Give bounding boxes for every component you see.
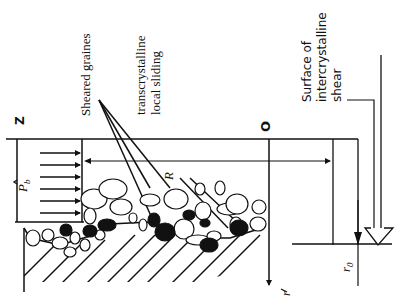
- origin-label: O: [258, 121, 273, 132]
- pressure-arrows: [40, 153, 80, 213]
- radius-0-label: r0: [338, 262, 355, 272]
- shear-surface-arrow: [365, 228, 393, 245]
- surface-leader-line: [347, 100, 374, 230]
- shear-zone-diagram: Sheared graines transcrystalline local s…: [0, 0, 412, 297]
- local-sliding-label: local sliding: [148, 51, 163, 115]
- surface-of-label: Surface of: [300, 40, 314, 102]
- transcrystalline-label: transcrystalline: [133, 35, 148, 115]
- shear-label: shear: [330, 68, 344, 102]
- sheared-grains-label: Sheared graines: [78, 33, 93, 116]
- radius-arrow-start: [84, 158, 91, 164]
- axis-z-label: Z: [13, 116, 27, 125]
- r0-arrow-head: [354, 232, 362, 245]
- intercrystalline-label: intercrystalline: [315, 12, 329, 102]
